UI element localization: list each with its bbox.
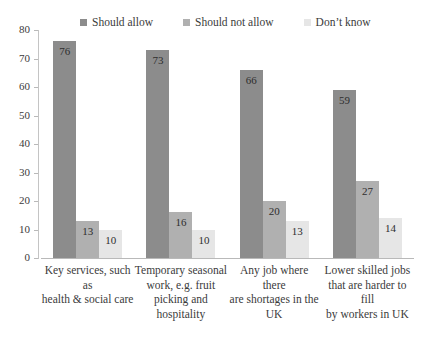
- bar: 10: [192, 230, 215, 259]
- bar: 13: [76, 221, 99, 258]
- bar-value-label: 13: [76, 225, 99, 237]
- bar: 14: [379, 218, 402, 258]
- legend-item-label: Don’t know: [316, 16, 371, 28]
- chart-legend: Should allowShould not allowDon’t know: [80, 13, 420, 31]
- category-label-line: Key services, such as: [41, 263, 134, 292]
- bar: 13: [286, 221, 309, 258]
- category-label-line: that are harder to fill: [321, 278, 414, 307]
- y-axis-tick-mark: [34, 201, 38, 202]
- y-axis-tick-label: 20: [19, 194, 30, 206]
- x-axis-category-label: Any job where thereare shortages in theU…: [228, 263, 321, 321]
- bar-value-label: 73: [146, 54, 169, 66]
- category-label-line: Temporary seasonal: [134, 263, 227, 278]
- bar: 76: [53, 41, 76, 258]
- bar-value-label: 14: [379, 222, 402, 234]
- plot-area: 761310731610662013592714: [41, 30, 414, 258]
- category-label-line: by workers in UK: [321, 307, 414, 322]
- category-label-line: Lower skilled jobs: [321, 263, 414, 278]
- y-axis-line: [38, 30, 39, 259]
- legend-item-2: Don’t know: [304, 16, 371, 28]
- bar-value-label: 27: [356, 185, 379, 197]
- x-axis-category-labels: Key services, such ashealth & social car…: [41, 263, 414, 344]
- y-axis-tick-mark: [34, 230, 38, 231]
- category-label-line: work, e.g. fruit: [134, 278, 227, 293]
- x-axis-category-label: Key services, such ashealth & social car…: [41, 263, 134, 307]
- bar-group: 592714: [333, 30, 402, 258]
- x-axis-category-label: Temporary seasonalwork, e.g. fruitpickin…: [134, 263, 227, 321]
- bar: 73: [146, 50, 169, 258]
- x-axis-category-label: Lower skilled jobsthat are harder to fil…: [321, 263, 414, 321]
- y-axis-tick-label: 70: [19, 52, 30, 64]
- bar: 66: [240, 70, 263, 258]
- bar-group: 731610: [146, 30, 215, 258]
- bar-value-label: 10: [192, 234, 215, 246]
- y-axis-tick-label: 0: [25, 251, 31, 263]
- y-axis-tick-label: 10: [19, 223, 30, 235]
- y-axis-tick-label: 80: [19, 23, 30, 35]
- legend-swatch-icon: [80, 19, 87, 26]
- bar-value-label: 59: [333, 94, 356, 106]
- category-label-line: UK: [228, 307, 321, 322]
- legend-swatch-icon: [183, 19, 190, 26]
- legend-item-label: Should not allow: [195, 16, 274, 28]
- y-axis-tick-mark: [34, 173, 38, 174]
- bar-value-label: 16: [169, 216, 192, 228]
- bar: 20: [263, 201, 286, 258]
- legend-item-0: Should allow: [80, 16, 153, 28]
- bar-value-label: 76: [53, 45, 76, 57]
- y-axis-tick-mark: [34, 116, 38, 117]
- bar-value-label: 13: [286, 225, 309, 237]
- bar: 27: [356, 181, 379, 258]
- y-axis-tick-mark: [34, 144, 38, 145]
- bar: 10: [99, 230, 122, 259]
- x-axis-line: [41, 258, 414, 259]
- y-axis-tick-mark: [34, 30, 38, 31]
- y-axis-tick-mark: [34, 258, 38, 259]
- bar-value-label: 20: [263, 205, 286, 217]
- category-label-line: hospitality: [134, 307, 227, 322]
- bar: 16: [169, 212, 192, 258]
- y-axis-tick-label: 30: [19, 166, 30, 178]
- category-label-line: picking and: [134, 292, 227, 307]
- bar: 59: [333, 90, 356, 258]
- legend-item-1: Should not allow: [183, 16, 274, 28]
- bar-group: 761310: [53, 30, 122, 258]
- bar-group: 662013: [240, 30, 309, 258]
- y-axis-tick-mark: [34, 87, 38, 88]
- y-axis-tick-mark: [34, 59, 38, 60]
- bar-value-label: 66: [240, 74, 263, 86]
- legend-swatch-icon: [304, 19, 311, 26]
- legend-item-label: Should allow: [92, 16, 153, 28]
- bar-value-label: 10: [99, 234, 122, 246]
- category-label-line: health & social care: [41, 292, 134, 307]
- bar-chart: Should allowShould not allowDon’t know 0…: [0, 0, 423, 344]
- y-axis-tick-label: 40: [19, 137, 30, 149]
- category-label-line: Any job where there: [228, 263, 321, 292]
- y-axis-tick-label: 50: [19, 109, 30, 121]
- y-axis-tick-label: 60: [19, 80, 30, 92]
- category-label-line: are shortages in the: [228, 292, 321, 307]
